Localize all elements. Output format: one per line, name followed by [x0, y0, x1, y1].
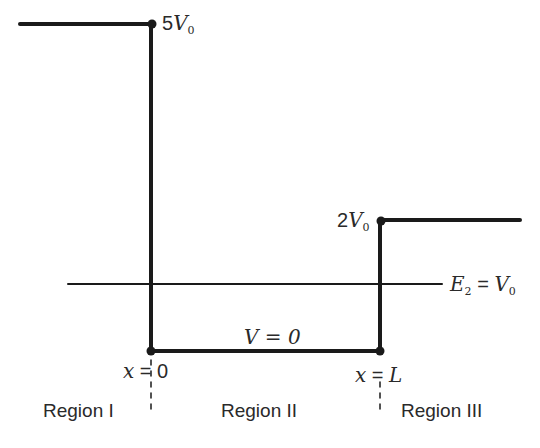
- label-x-eq-0: x = 0: [123, 361, 168, 381]
- label-2V0: 2V0: [337, 210, 370, 233]
- region-label-3: Region III: [401, 401, 482, 420]
- label-x-eq-L: x = L: [355, 365, 402, 385]
- region-label-1: Region I: [43, 401, 114, 420]
- label-energy: E2 = V0: [450, 274, 516, 297]
- corner-dot-top-right: [377, 217, 386, 226]
- potential-diagram: [0, 0, 540, 448]
- label-5V0: 5V0: [162, 13, 195, 36]
- corner-dot-top-left: [148, 20, 157, 29]
- label-well-v0: V = 0: [244, 327, 301, 347]
- corner-dot-bottom-left: [147, 347, 156, 356]
- corner-dot-bottom-right: [376, 347, 385, 356]
- region-label-2: Region II: [221, 401, 297, 420]
